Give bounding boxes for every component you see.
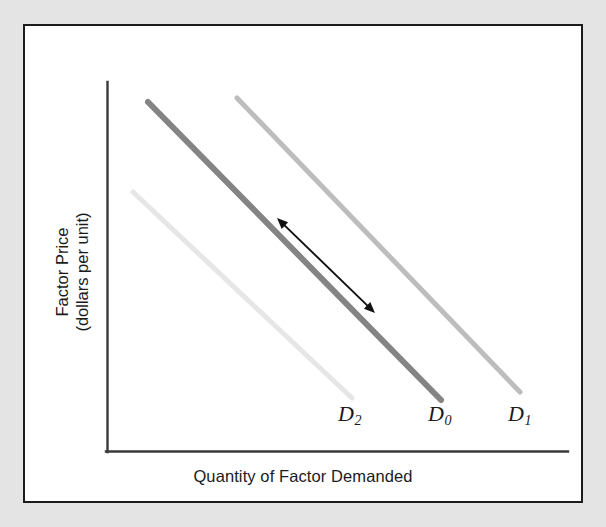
demand-curve-d2: [133, 192, 352, 398]
curve-label-d0-sub: 0: [444, 412, 452, 428]
figure-root: Factor Price (dollars per unit) Quantity…: [0, 0, 606, 527]
curve-label-d1-letter: D: [508, 401, 524, 426]
curve-label-d2-sub: 2: [354, 412, 362, 428]
axes-group: [106, 82, 568, 452]
demand-curves-group: [133, 98, 520, 400]
plot-canvas: [0, 0, 606, 527]
demand-curve-d1: [237, 98, 520, 392]
curve-label-d2-letter: D: [338, 401, 354, 426]
curve-label-d0-letter: D: [428, 401, 444, 426]
curve-label-d1-sub: 1: [524, 412, 532, 428]
x-axis-label: Quantity of Factor Demanded: [0, 466, 606, 486]
demand-curve-d0: [148, 102, 441, 400]
arrow-shaft: [283, 224, 370, 308]
curve-label-d1: D1: [508, 401, 531, 427]
double-headed-shift-arrow: [277, 218, 375, 313]
curve-label-d2: D2: [338, 401, 361, 427]
curve-label-d0: D0: [428, 401, 451, 427]
